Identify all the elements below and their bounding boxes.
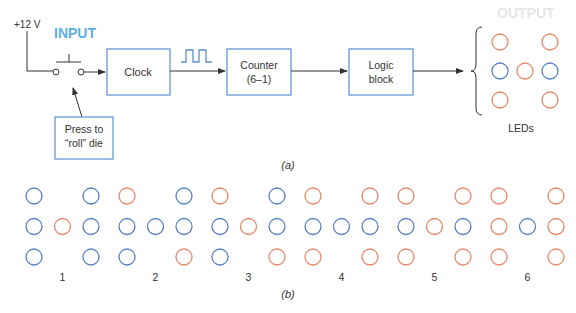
face-number-label: 3 [246,271,252,283]
led-off-icon [83,188,99,204]
led-off-icon [176,188,192,204]
led-off-icon [212,219,228,235]
led-on-icon [492,34,508,50]
led-on-icon [517,63,533,79]
clock-label: Clock [124,66,152,78]
led-off-icon [398,219,414,235]
die-face-3: 3 [212,188,285,283]
led-on-icon [305,188,321,204]
die-face-2: 2 [119,188,192,283]
led-on-icon [492,92,508,108]
supply-wire [27,31,53,71]
counter-block [227,49,291,95]
clock-waveform-icon [181,50,212,62]
led-off-icon [269,219,285,235]
push-button-switch-icon [53,54,84,75]
led-on-icon [548,188,564,204]
note-pointer-arrow [73,88,82,117]
input-label: INPUT [54,25,96,41]
led-on-icon [427,219,443,235]
led-on-icon [455,249,471,265]
die-face-6: 6 [491,188,564,283]
led-off-icon [362,219,378,235]
led-on-icon [55,219,71,235]
led-off-icon [305,219,321,235]
output-label: OUTPUT [497,5,555,21]
led-on-icon [398,249,414,265]
die-diagram: +12 V INPUT OUTPUT Press to “roll” die C… [0,0,576,313]
led-on-icon [491,249,507,265]
face-number-label: 1 [60,271,66,283]
led-off-icon [26,188,42,204]
led-on-icon [176,249,192,265]
counter-label-line1: Counter [240,59,278,71]
die-face-5: 5 [398,188,471,283]
led-off-icon [492,63,508,79]
led-on-icon [491,219,507,235]
brace-icon [471,27,482,115]
led-on-icon [542,92,558,108]
led-off-icon [148,219,164,235]
output-led-array [492,34,558,108]
led-on-icon [241,219,257,235]
led-on-icon [548,219,564,235]
led-off-icon [26,219,42,235]
face-number-label: 4 [339,271,345,283]
led-off-icon [83,249,99,265]
part-b-die-faces: 123456 [26,188,564,283]
led-on-icon [398,188,414,204]
logic-label-line1: Logic [368,59,393,71]
led-on-icon [362,249,378,265]
led-off-icon [520,219,536,235]
led-off-icon [212,249,228,265]
led-on-icon [542,34,558,50]
logic-label-line2: block [369,73,394,85]
caption-b: (b) [281,288,295,300]
led-off-icon [455,219,471,235]
press-note-line1: Press to [65,123,104,135]
led-on-icon [269,249,285,265]
led-on-icon [491,188,507,204]
face-number-label: 5 [432,271,438,283]
led-on-icon [548,249,564,265]
led-off-icon [26,249,42,265]
part-a-block-diagram: +12 V INPUT OUTPUT Press to “roll” die C… [14,5,558,171]
led-off-icon [542,63,558,79]
counter-label-line2: (6–1) [247,73,272,85]
led-off-icon [269,188,285,204]
die-face-4: 4 [305,188,378,283]
led-off-icon [334,219,350,235]
led-on-icon [455,188,471,204]
led-off-icon [176,219,192,235]
logic-block [349,49,413,95]
led-on-icon [212,188,228,204]
led-on-icon [305,249,321,265]
face-number-label: 6 [525,271,531,283]
press-note-line2: “roll” die [65,137,103,149]
led-off-icon [83,219,99,235]
die-face-1: 1 [26,188,99,283]
led-on-icon [362,188,378,204]
leds-label: LEDs [508,122,534,134]
led-off-icon [119,249,135,265]
led-on-icon [119,188,135,204]
face-number-label: 2 [153,271,159,283]
caption-a: (a) [281,159,295,171]
led-off-icon [119,219,135,235]
supply-voltage-label: +12 V [14,19,41,30]
